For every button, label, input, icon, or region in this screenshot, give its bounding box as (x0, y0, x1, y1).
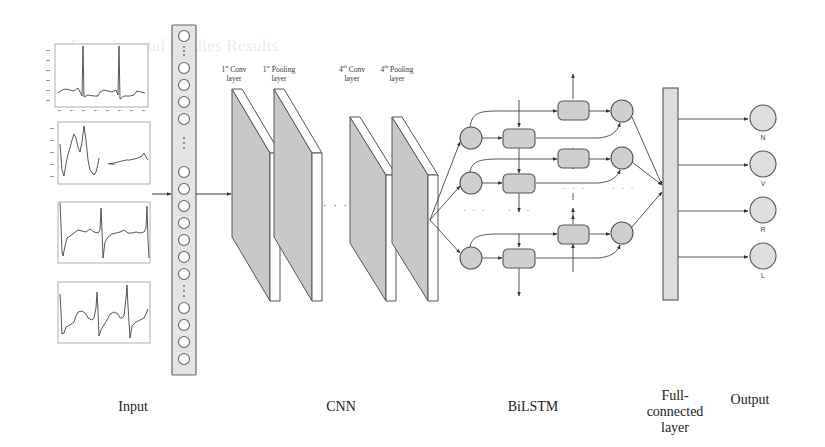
cnn-layer-4-conv (350, 117, 396, 301)
bilstm-output-node-1 (611, 100, 633, 122)
bilstm-input-node-2 (460, 172, 482, 194)
bilstm-output-node-2 (611, 147, 633, 169)
lstm-forward-cell-1 (503, 129, 535, 148)
input-vector-column (172, 25, 196, 375)
ecg-chart-1 (46, 44, 148, 111)
ecg-chart-3 (58, 202, 150, 263)
output-node-r (750, 197, 776, 223)
ecg-chart-2 (50, 122, 150, 184)
output-label-v: V (756, 180, 770, 187)
label-1st-conv: 1st Convlayer (216, 62, 252, 83)
output-label-n: N (756, 134, 770, 141)
fc-layer-bar (663, 88, 678, 300)
bilstm-output-node-n (611, 222, 633, 244)
output-node-n (750, 105, 776, 131)
cnn-ellipsis: · · · (323, 199, 350, 211)
cnn-layer-4-pooling (392, 117, 438, 301)
stage-label-bilstm: BiLSTM (505, 399, 561, 415)
ecg-chart-4 (58, 282, 150, 343)
output-label-r: R (756, 226, 770, 233)
label-4th-pooling: 4th Poolinglayer (374, 62, 420, 83)
lstm-forward-cell-2 (503, 174, 535, 193)
output-label-l: L (756, 272, 770, 279)
stage-label-cnn: CNN (321, 399, 361, 415)
svg-text:· · ·: · · · (463, 205, 487, 215)
cnn-layer-1-pooling (274, 89, 322, 301)
lstm-backward-cell-1 (558, 101, 589, 120)
lstm-forward-cell-n (503, 249, 535, 268)
stage-label-fc: Full-connected layer (634, 388, 716, 436)
bilstm-input-node-n (460, 247, 482, 269)
label-4th-conv: 4th Convlayer (334, 62, 370, 83)
bilstm-to-fc-arrows (632, 117, 662, 227)
output-node-v (750, 151, 776, 177)
fc-to-output-arrows (678, 119, 748, 257)
stage-label-input: Input (108, 399, 158, 415)
svg-text:· · ·: · · · (612, 183, 636, 193)
bilstm-input-node-1 (460, 127, 482, 149)
stage-label-output: Output (722, 392, 778, 408)
label-1st-pooling: 1st Poolinglayer (258, 62, 300, 83)
cnn-layer-1-conv (232, 89, 280, 301)
lstm-backward-cell-2 (558, 149, 589, 168)
svg-text:· · ·: · · · (563, 183, 587, 193)
bilstm-block: · · · · · · · · · · · · (460, 74, 636, 296)
lstm-backward-cell-n (558, 225, 589, 244)
svg-text:· · ·: · · · (508, 205, 532, 215)
output-node-l (750, 243, 776, 269)
